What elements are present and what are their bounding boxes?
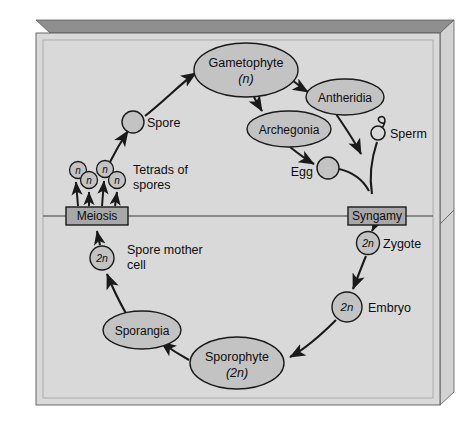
tetrad-n-4-ploidy: n xyxy=(114,175,120,186)
syngamy-label: Syngamy xyxy=(352,209,402,223)
embryo-ploidy: 2n xyxy=(340,301,354,313)
cell-tetrad-n-4[interactable]: n xyxy=(109,172,126,189)
antheridia-label: Antheridia xyxy=(318,91,372,105)
sporangia-label: Sporangia xyxy=(115,324,170,338)
node-sporangia[interactable]: Sporangia xyxy=(103,311,181,349)
node-gametophyte[interactable]: Gametophyte (n) xyxy=(194,43,298,97)
zygote-label: Zygote xyxy=(383,237,421,251)
tetrad-n-1-ploidy: n xyxy=(75,165,81,176)
spore-mother-line-1: Spore mother xyxy=(127,243,203,257)
gametophyte-ploidy: (n) xyxy=(238,72,253,86)
archegonia-label: Archegonia xyxy=(259,123,320,137)
cell-spore-mother-cell[interactable]: 2n xyxy=(90,246,114,270)
slab-top-face xyxy=(36,20,454,33)
sporophyte-label: Sporophyte xyxy=(205,350,269,364)
zygote-ploidy: 2n xyxy=(361,237,374,249)
spore-circle[interactable] xyxy=(122,111,144,133)
cell-tetrad-n-2[interactable]: n xyxy=(81,172,98,189)
sporophyte-ploidy: (2n) xyxy=(226,366,248,380)
spore-label: Spore xyxy=(147,116,180,130)
tetrad-n-2-ploidy: n xyxy=(86,175,92,186)
node-sporophyte[interactable]: Sporophyte (2n) xyxy=(190,337,284,389)
node-meiosis[interactable]: Meiosis xyxy=(66,207,128,225)
node-syngamy[interactable]: Syngamy xyxy=(348,207,406,225)
node-archegonia[interactable]: Archegonia xyxy=(247,111,331,147)
spore-mother-cell-ploidy: 2n xyxy=(95,252,108,264)
meiosis-label: Meiosis xyxy=(77,209,118,223)
node-antheridia[interactable]: Antheridia xyxy=(306,79,384,115)
tetrads-line-1: Tetrads of xyxy=(133,163,188,177)
egg-circle[interactable] xyxy=(317,157,339,179)
tetrads-line-2: spores xyxy=(133,178,171,192)
egg-label: Egg xyxy=(291,165,313,179)
sperm-label: Sperm xyxy=(390,127,427,141)
gametophyte-ellipse[interactable] xyxy=(194,43,298,97)
figure-canvas: Gametophyte (n) Antheridia Archegonia Sp… xyxy=(0,0,467,426)
tetrad-n-3-ploidy: n xyxy=(102,164,108,175)
life-cycle-diagram: Gametophyte (n) Antheridia Archegonia Sp… xyxy=(0,0,467,426)
spore-mother-line-2: cell xyxy=(127,258,146,272)
gametophyte-label: Gametophyte xyxy=(208,56,283,70)
embryo-label: Embryo xyxy=(368,301,411,315)
